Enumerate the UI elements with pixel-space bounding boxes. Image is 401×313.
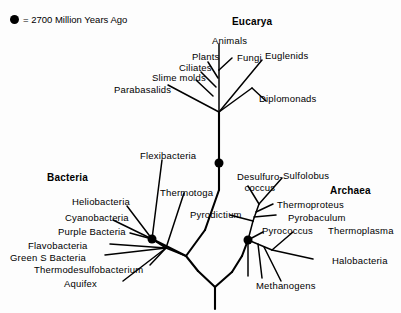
- filled-circle-icon: [10, 15, 19, 24]
- taxon-label-thermotoga: Thermotoga: [160, 188, 213, 199]
- taxon-label-thermoproteus: Thermoproteus: [277, 200, 344, 211]
- branch-root-fork-right: [215, 272, 232, 287]
- taxon-label-sulfolobus: Sulfolobus: [283, 171, 329, 182]
- taxon-label-thermodesulfobacterium: Thermodesulfobacterium: [34, 265, 143, 276]
- taxon-label-fungi: Fungi: [237, 53, 262, 64]
- taxon-label-desulfurococcus: Desulfuro-coccus: [237, 172, 283, 193]
- taxon-label-slime-molds: Slime molds: [152, 73, 206, 84]
- taxon-label-pyrodictium: Pyrodictium: [190, 210, 242, 221]
- branch-archaea-halobacteria: [272, 250, 313, 259]
- branch-eucarya-fungi: [219, 58, 232, 70]
- taxon-label-flavobacteria: Flavobacteria: [28, 241, 88, 252]
- branch-archaea-trunk: [232, 256, 242, 272]
- bacteria-2700my-node: [148, 235, 157, 244]
- branch-root-fork-left: [198, 271, 215, 287]
- taxon-label-animals: Animals: [212, 36, 247, 47]
- taxon-label-diplomonads: Diplomonads: [259, 94, 317, 105]
- archaea-2700my-node: [244, 236, 253, 245]
- legend: = 2700 Million Years Ago: [10, 14, 127, 25]
- branch-eucarya-parabasalids: [168, 85, 219, 112]
- taxon-label-cyanobacteria: Cyanobacteria: [65, 213, 129, 224]
- taxon-label-pyrobaculum: Pyrobaculum: [288, 213, 346, 224]
- taxon-label-aquifex: Aquifex: [64, 279, 97, 290]
- branch-bacteria-thermotoga: [166, 193, 184, 248]
- branch-bacteria-trunk: [186, 256, 198, 271]
- branch-bacteria-flexibacteria: [152, 160, 162, 239]
- taxon-label-methanogens: Methanogens: [256, 281, 316, 292]
- taxon-label-flexibacteria: Flexibacteria: [140, 151, 196, 162]
- branch-bacteria-heliobacteria: [127, 206, 152, 239]
- taxon-label-pyrococcus: Pyrococcus: [262, 226, 313, 237]
- taxon-label-plants: Plants: [192, 52, 220, 63]
- taxon-label-desulfurococcus-line1: Desulfuro-: [237, 172, 283, 183]
- branch-eucarya-trunk-lower: [186, 230, 205, 256]
- taxon-label-halobacteria: Halobacteria: [332, 256, 388, 267]
- taxon-label-green-s-bacteria: Green S Bacteria: [10, 253, 86, 264]
- eucarya-2700my-node: [215, 159, 224, 168]
- legend-label: = 2700 Million Years Ago: [23, 14, 127, 25]
- branch-bacteria-green-s: [105, 248, 166, 255]
- branch-bacteria-flavobacteria: [110, 244, 166, 248]
- domain-label-archaea: Archaea: [330, 186, 371, 197]
- branch-archaea-pyrobaculum: [254, 215, 276, 217]
- taxon-label-desulfurococcus-line2: coccus: [237, 183, 283, 194]
- phylogenetic-tree-figure: = 2700 Million Years Ago EucaryaBacteria…: [0, 0, 401, 313]
- taxon-label-heliobacteria: Heliobacteria: [72, 197, 130, 208]
- branch-eucarya-euglenids-base: [219, 60, 262, 112]
- taxon-label-euglenids: Euglenids: [265, 51, 308, 62]
- taxon-label-parabasalids: Parabasalids: [114, 85, 171, 96]
- domain-label-eucarya: Eucarya: [232, 17, 272, 28]
- taxon-label-purple-bacteria: Purple Bacteria: [58, 227, 126, 238]
- branch-archaea-methanogen-b: [258, 244, 262, 278]
- branch-bacteria-hub-to-trunk: [166, 248, 186, 256]
- taxon-label-thermoplasma: Thermoplasma: [328, 226, 394, 237]
- domain-label-bacteria: Bacteria: [47, 173, 88, 184]
